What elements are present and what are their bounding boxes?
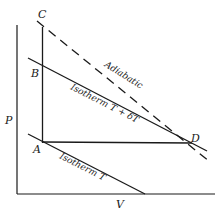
line-a-d — [43, 142, 193, 143]
point-label-c: C — [38, 8, 47, 21]
point-label-d: D — [190, 132, 200, 145]
isotherm-low-label: Isotherm T — [57, 150, 108, 183]
adiabatic-curve — [37, 21, 210, 162]
axis-label-v: V — [116, 198, 125, 211]
axis-label-p: P — [4, 114, 13, 127]
point-label-a: A — [32, 143, 41, 156]
pv-diagram: C B A D P V Adiabatic Isotherm T + δT Is… — [0, 0, 220, 213]
point-label-b: B — [30, 67, 39, 80]
isotherm-high-label: Isotherm T + δT — [68, 81, 141, 125]
adiabatic-label: Adiabatic — [102, 59, 145, 91]
